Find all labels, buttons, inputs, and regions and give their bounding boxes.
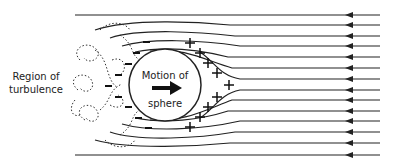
region-label-line1: Region of: [6, 70, 66, 83]
region-label-line2: turbulence: [6, 83, 66, 96]
region-of-turbulence-label: Region of turbulence: [6, 70, 66, 96]
sphere-label: sphere: [135, 98, 195, 109]
motion-of-label: Motion of: [135, 70, 195, 81]
